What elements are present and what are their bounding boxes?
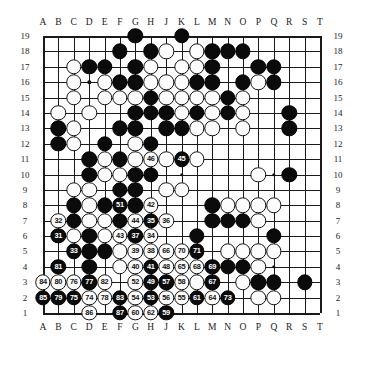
stone[interactable] <box>66 121 81 136</box>
numbered-stone[interactable]: 81 <box>51 259 66 274</box>
stone[interactable] <box>97 228 112 243</box>
stone[interactable] <box>51 121 66 136</box>
numbered-stone[interactable]: 40 <box>128 259 143 274</box>
numbered-stone[interactable]: 58 <box>174 275 189 290</box>
stone[interactable] <box>174 121 189 136</box>
stone[interactable] <box>251 244 266 259</box>
stone[interactable] <box>189 151 204 166</box>
stone[interactable] <box>251 74 266 89</box>
stone[interactable] <box>251 213 266 228</box>
stone[interactable] <box>143 59 158 74</box>
stone[interactable] <box>251 259 266 274</box>
numbered-stone[interactable]: 71 <box>189 244 204 259</box>
numbered-stone[interactable]: 61 <box>189 290 204 305</box>
stone[interactable] <box>97 136 112 151</box>
stone[interactable] <box>174 59 189 74</box>
stone[interactable] <box>282 167 297 182</box>
stone[interactable] <box>235 198 250 213</box>
numbered-stone[interactable]: 36 <box>158 213 173 228</box>
numbered-stone[interactable]: 60 <box>128 305 143 320</box>
numbered-stone[interactable]: 70 <box>174 244 189 259</box>
stone[interactable] <box>112 90 127 105</box>
numbered-stone[interactable]: 74 <box>81 290 96 305</box>
stone[interactable] <box>266 244 281 259</box>
stone[interactable] <box>235 121 250 136</box>
numbered-stone[interactable]: 86 <box>81 305 96 320</box>
stone[interactable] <box>174 182 189 197</box>
stone[interactable] <box>128 90 143 105</box>
stone[interactable] <box>97 198 112 213</box>
stone[interactable] <box>97 74 112 89</box>
stone[interactable] <box>174 28 189 43</box>
stone[interactable] <box>235 44 250 59</box>
numbered-stone[interactable]: 38 <box>143 244 158 259</box>
stone[interactable] <box>235 213 250 228</box>
stone[interactable] <box>112 244 127 259</box>
numbered-stone[interactable]: 51 <box>112 198 127 213</box>
stone[interactable] <box>66 213 81 228</box>
stone[interactable] <box>174 74 189 89</box>
numbered-stone[interactable]: 55 <box>174 290 189 305</box>
stone[interactable] <box>66 198 81 213</box>
stone[interactable] <box>51 105 66 120</box>
stone[interactable] <box>205 121 220 136</box>
numbered-stone[interactable]: 53 <box>143 290 158 305</box>
stone[interactable] <box>297 275 312 290</box>
stone[interactable] <box>112 182 127 197</box>
stone[interactable] <box>235 105 250 120</box>
stone[interactable] <box>251 167 266 182</box>
stone[interactable] <box>251 275 266 290</box>
numbered-stone[interactable]: 75 <box>66 290 81 305</box>
stone[interactable] <box>235 74 250 89</box>
stone[interactable] <box>128 105 143 120</box>
stone[interactable] <box>189 121 204 136</box>
stone[interactable] <box>220 198 235 213</box>
numbered-stone[interactable]: 76 <box>66 275 81 290</box>
numbered-stone[interactable]: 35 <box>143 213 158 228</box>
stone[interactable] <box>66 182 81 197</box>
stone[interactable] <box>282 121 297 136</box>
numbered-stone[interactable]: 46 <box>143 151 158 166</box>
stone[interactable] <box>205 105 220 120</box>
numbered-stone[interactable]: 42 <box>143 198 158 213</box>
numbered-stone[interactable]: 41 <box>143 259 158 274</box>
numbered-stone[interactable]: 48 <box>158 259 173 274</box>
stone[interactable] <box>266 275 281 290</box>
numbered-stone[interactable]: 45 <box>174 151 189 166</box>
numbered-stone[interactable]: 66 <box>158 244 173 259</box>
stone[interactable] <box>205 44 220 59</box>
stone[interactable] <box>81 167 96 182</box>
numbered-stone[interactable]: 83 <box>112 290 127 305</box>
numbered-stone[interactable]: 80 <box>51 275 66 290</box>
numbered-stone[interactable]: 64 <box>205 290 220 305</box>
stone[interactable] <box>112 167 127 182</box>
stone[interactable] <box>189 275 204 290</box>
stone[interactable] <box>143 44 158 59</box>
stone[interactable] <box>81 182 96 197</box>
stone[interactable] <box>251 59 266 74</box>
stone[interactable] <box>235 259 250 274</box>
stone[interactable] <box>205 74 220 89</box>
stone[interactable] <box>97 213 112 228</box>
stone[interactable] <box>112 213 127 228</box>
stone[interactable] <box>66 74 81 89</box>
stone[interactable] <box>66 90 81 105</box>
stone[interactable] <box>51 136 66 151</box>
numbered-stone[interactable]: 87 <box>112 305 127 320</box>
stone[interactable] <box>189 44 204 59</box>
numbered-stone[interactable]: 85 <box>35 290 50 305</box>
stone[interactable] <box>112 74 127 89</box>
stone[interactable] <box>128 198 143 213</box>
stone[interactable] <box>81 198 96 213</box>
numbered-stone[interactable]: 52 <box>128 275 143 290</box>
numbered-stone[interactable]: 84 <box>35 275 50 290</box>
stone[interactable] <box>266 74 281 89</box>
stone[interactable] <box>251 198 266 213</box>
stone[interactable] <box>128 74 143 89</box>
stone[interactable] <box>189 90 204 105</box>
numbered-stone[interactable]: 57 <box>158 275 173 290</box>
stone[interactable] <box>220 105 235 120</box>
stone[interactable] <box>143 167 158 182</box>
stone[interactable] <box>220 259 235 274</box>
stone[interactable] <box>66 136 81 151</box>
